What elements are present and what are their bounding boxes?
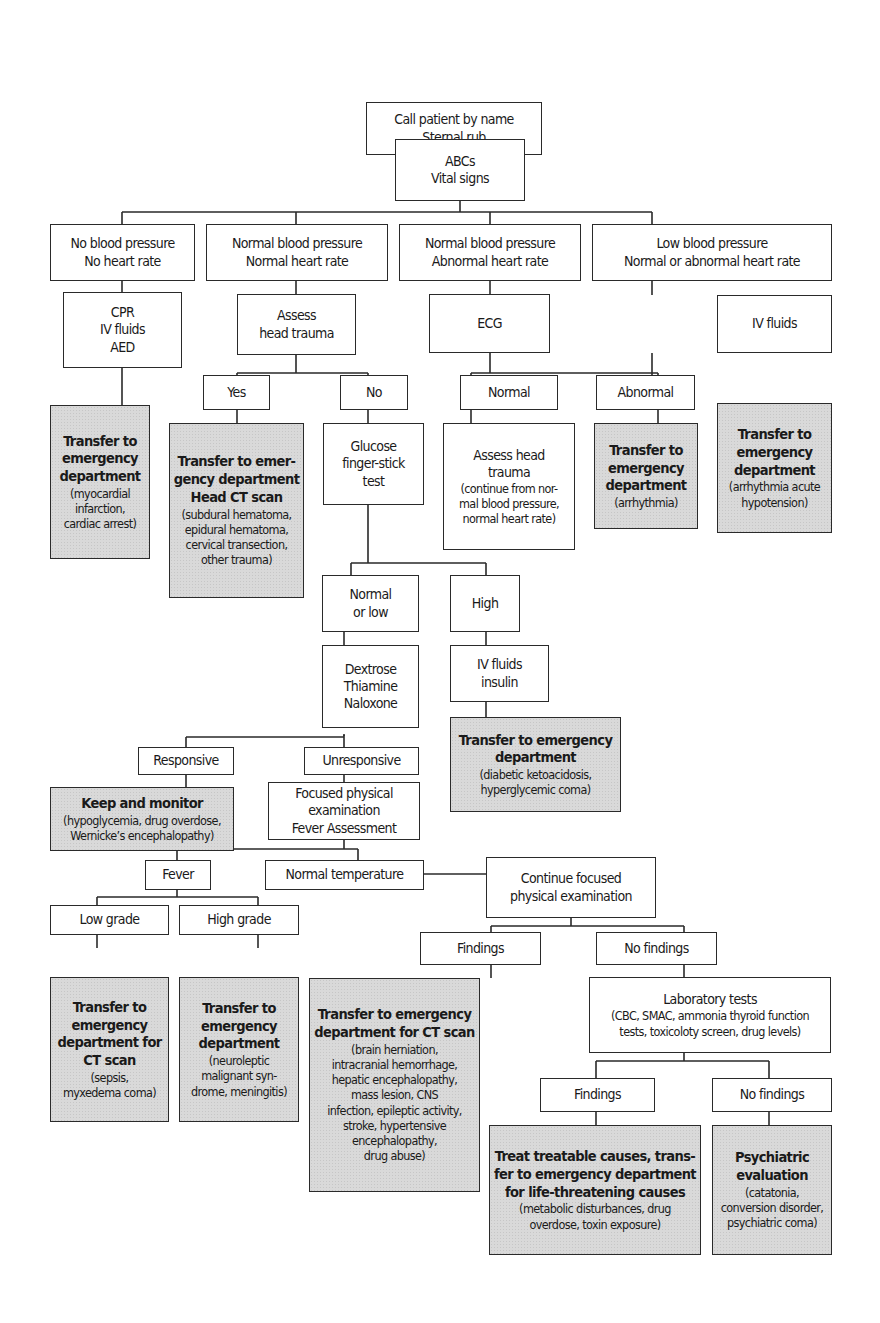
findings-2-node: Findings	[540, 1078, 655, 1112]
transfer-mi-outcome: Transfer to emergency department (myocar…	[50, 405, 150, 559]
normal-bp-abnormal-hr-node: Normal blood pressure Abnormal heart rat…	[399, 224, 581, 281]
low-bp-node: Low blood pressure Normal or abnormal he…	[592, 224, 832, 281]
yes-node: Yes	[203, 375, 270, 410]
no-findings-1-node: No findings	[596, 932, 717, 965]
cpr-node: CPR IV fluids AED	[63, 292, 182, 368]
ecg-node: ECG	[429, 294, 550, 353]
continue-exam-node: Continue focused physical examination	[486, 857, 656, 918]
ecg-abnormal-node: Abnormal	[596, 375, 695, 410]
dextrose-thiamine-naloxone-node: Dextrose Thiamine Naloxone	[322, 645, 419, 728]
flowchart: Call patient by name Sternal rub ABCs Vi…	[0, 0, 880, 1323]
focused-exam-node: Focused physical examination Fever Asses…	[268, 782, 420, 840]
transfer-hypotension-outcome: Transfer to emergency department (arrhyt…	[717, 403, 832, 533]
iv-fluids-node: IV fluids	[717, 295, 832, 353]
normal-temp-node: Normal temperature	[265, 860, 424, 890]
normal-bp-normal-hr-node: Normal blood pressure Normal heart rate	[206, 224, 388, 281]
transfer-ct-findings-outcome: Transfer to emergency department for CT …	[309, 978, 480, 1192]
ecg-normal-node: Normal	[460, 375, 558, 410]
low-grade-node: Low grade	[50, 905, 169, 935]
high-node: High	[450, 575, 520, 632]
transfer-dka-outcome: Transfer to emergency department (diabet…	[450, 717, 621, 812]
transfer-ct-sepsis-outcome: Transfer to emergency department for CT …	[50, 977, 169, 1122]
assess-head-trauma-node: Assess head trauma	[237, 294, 356, 355]
transfer-head-ct-outcome: Transfer to emer- gency department Head …	[169, 423, 304, 598]
fever-node: Fever	[145, 860, 211, 890]
normal-or-low-node: Normal or low	[322, 575, 419, 632]
no-bp-node: No blood pressure No heart rate	[50, 224, 195, 281]
no-node: No	[340, 375, 408, 410]
lab-tests-node: Laboratory tests (CBC, SMAC, ammonia thy…	[589, 977, 831, 1053]
assess-head-trauma-2-node: Assess head trauma (continue from nor- m…	[443, 423, 575, 550]
iv-fluids-insulin-node: IV fluids insulin	[450, 645, 549, 702]
abcs-node: ABCs Vital signs	[395, 139, 525, 201]
psych-eval-outcome: Psychiatric evaluation (catatonia, conve…	[712, 1125, 832, 1255]
glucose-test-node: Glucose finger-stick test	[323, 423, 424, 505]
transfer-arrhythmia-outcome: Transfer to emergency department (arrhyt…	[594, 423, 698, 529]
high-grade-node: High grade	[179, 905, 299, 935]
responsive-node: Responsive	[138, 747, 234, 775]
unresponsive-node: Unresponsive	[304, 747, 419, 775]
findings-1-node: Findings	[420, 932, 541, 965]
treat-causes-outcome: Treat treatable causes, trans- fer to em…	[489, 1125, 701, 1255]
transfer-nms-outcome: Transfer to emergency department (neurol…	[179, 977, 299, 1122]
no-findings-2-node: No findings	[712, 1078, 832, 1112]
keep-monitor-outcome: Keep and monitor (hypoglycemia, drug ove…	[50, 787, 234, 851]
